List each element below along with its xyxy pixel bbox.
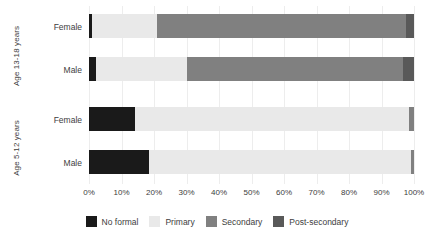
legend-label: Post-secondary — [289, 217, 348, 227]
bar-segment-primary — [92, 14, 157, 38]
bar-segment-post-secondary — [406, 14, 414, 38]
plot-area — [89, 6, 414, 184]
bar-segment-no-formal — [89, 107, 135, 131]
stacked-bar-chart: Age 13-18 years Age 5-12 years Female Ma… — [0, 0, 434, 250]
gridline — [414, 6, 415, 184]
bar-row — [89, 14, 414, 38]
bar-segment-secondary — [411, 150, 414, 174]
bar-segment-post-secondary — [403, 57, 414, 81]
bar-segment-primary — [135, 107, 410, 131]
category-label-male-13-18: Male — [26, 65, 82, 75]
bar-segment-primary — [149, 150, 411, 174]
bar-row — [89, 57, 414, 81]
group-axis-label-age-13-18: Age 13-18 years — [12, 8, 21, 104]
category-label-male-5-12: Male — [26, 158, 82, 168]
x-tick-label: 100% — [394, 188, 434, 197]
bar-row — [89, 107, 414, 131]
bar-segment-primary — [96, 57, 187, 81]
category-label-female-13-18: Female — [26, 22, 82, 32]
legend: No formalPrimarySecondaryPost-secondary — [0, 216, 434, 227]
legend-label: No formal — [102, 217, 139, 227]
bar-segment-secondary — [187, 57, 403, 81]
bar-row — [89, 150, 414, 174]
legend-swatch-icon — [149, 216, 160, 227]
legend-item[interactable]: No formal — [86, 216, 139, 227]
x-axis: 0%10%20%30%40%50%60%70%80%90%100% — [89, 188, 414, 202]
category-label-female-5-12: Female — [26, 115, 82, 125]
legend-item[interactable]: Post-secondary — [273, 216, 348, 227]
bar-segment-secondary — [157, 14, 406, 38]
legend-swatch-icon — [86, 216, 97, 227]
bar-segment-no-formal — [89, 150, 149, 174]
legend-item[interactable]: Primary — [149, 216, 194, 227]
legend-swatch-icon — [273, 216, 284, 227]
legend-label: Primary — [165, 217, 194, 227]
legend-item[interactable]: Secondary — [206, 216, 263, 227]
legend-label: Secondary — [222, 217, 263, 227]
group-axis-label-age-5-12: Age 5-12 years — [12, 100, 21, 196]
bar-segment-secondary — [409, 107, 414, 131]
legend-swatch-icon — [206, 216, 217, 227]
